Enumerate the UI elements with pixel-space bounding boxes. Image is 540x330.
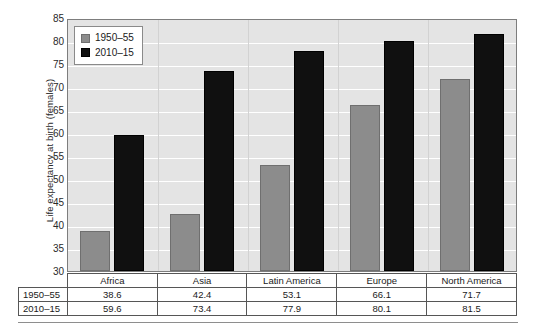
- bottom-divider: [18, 322, 518, 323]
- table-row-header: 2010–15: [19, 302, 68, 316]
- y-axis-tick-label: 85: [34, 14, 64, 24]
- table-header-row: Africa Asia Latin America Europe North A…: [19, 274, 517, 288]
- table-cell: 66.1: [337, 288, 427, 302]
- y-axis-tick-label: 45: [34, 198, 64, 208]
- table-cell: 59.6: [67, 302, 157, 316]
- table-column-header: Asia: [157, 274, 247, 288]
- y-axis-tick-label: 75: [34, 60, 64, 70]
- bar: [384, 41, 414, 271]
- y-axis-tick-label: 65: [34, 106, 64, 116]
- black-square-swatch: [81, 48, 90, 57]
- legend-entry-label: 1950–55: [95, 31, 134, 46]
- bar-group: [248, 20, 338, 271]
- y-axis-tick-label: 55: [34, 152, 64, 162]
- y-axis-tick-label: 40: [34, 221, 64, 231]
- y-axis-tick-label: 80: [34, 37, 64, 47]
- table-row: 2010–15 59.6 73.4 77.9 80.1 81.5: [19, 302, 517, 316]
- bar-group: [428, 20, 517, 271]
- y-axis-tick-label: 60: [34, 129, 64, 139]
- table-cell: 77.9: [247, 302, 337, 316]
- table-row: 1950–55 38.6 42.4 53.1 66.1 71.7: [19, 288, 517, 302]
- table-cell: 53.1: [247, 288, 337, 302]
- bar-chart-figure: Life expectancy at birth (females) 85807…: [0, 0, 540, 330]
- table-column-header: North America: [427, 274, 517, 288]
- table-cell: 38.6: [67, 288, 157, 302]
- gray-square-swatch: [81, 34, 90, 43]
- bar: [114, 135, 144, 271]
- chart-legend: 1950–55 2010–15: [74, 26, 143, 65]
- bar: [204, 71, 234, 271]
- y-axis-tick-label: 70: [34, 83, 64, 93]
- bar: [294, 51, 324, 271]
- y-axis-tick-label: 50: [34, 175, 64, 185]
- table-cell: 80.1: [337, 302, 427, 316]
- data-table: Africa Asia Latin America Europe North A…: [18, 273, 517, 316]
- table-cell: 81.5: [427, 302, 517, 316]
- legend-entry: 2010–15: [81, 46, 134, 61]
- bar-group: [338, 20, 428, 271]
- bar: [440, 79, 470, 271]
- table-cell: 42.4: [157, 288, 247, 302]
- table-corner-cell: [19, 274, 68, 288]
- plot-area: 1950–55 2010–15: [67, 19, 517, 272]
- y-axis-tick-labels: 858075706560555045403530: [34, 19, 64, 272]
- legend-entry: 1950–55: [81, 31, 134, 46]
- bar: [350, 105, 380, 271]
- bar: [80, 231, 110, 271]
- bar: [260, 165, 290, 271]
- table-cell: 71.7: [427, 288, 517, 302]
- bar-group: [158, 20, 248, 271]
- table-column-header: Europe: [337, 274, 427, 288]
- legend-entry-label: 2010–15: [95, 46, 134, 61]
- y-axis-tick-label: 35: [34, 244, 64, 254]
- table-row-header: 1950–55: [19, 288, 68, 302]
- table-column-header: Latin America: [247, 274, 337, 288]
- table-column-header: Africa: [67, 274, 157, 288]
- table-cell: 73.4: [157, 302, 247, 316]
- bar: [170, 214, 200, 271]
- bar: [474, 34, 504, 271]
